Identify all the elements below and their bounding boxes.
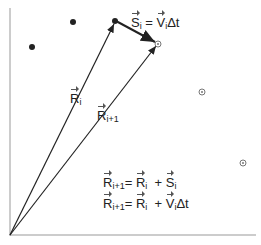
equation-2: Ri+1= Ri + ViΔt xyxy=(103,197,189,212)
particle-dot xyxy=(29,44,35,50)
r-i-label: Ri xyxy=(70,92,81,107)
s-symbol: S xyxy=(166,176,175,189)
r-sub: i+1 xyxy=(112,181,124,191)
plus: + xyxy=(147,175,165,190)
plus: + xyxy=(147,196,165,211)
equation-1: Ri+1= Ri + Si xyxy=(103,176,176,191)
s-symbol: S xyxy=(131,16,140,29)
delta-t: Δt xyxy=(176,196,188,211)
equals: = xyxy=(125,175,136,190)
r-sub: i+1 xyxy=(112,202,124,212)
r-sub: i xyxy=(79,97,81,107)
s-i-equation-label: Si = ViΔt xyxy=(131,16,179,31)
v-symbol: V xyxy=(157,16,166,29)
r-symbol: R xyxy=(70,92,79,105)
vector-r-i xyxy=(10,24,114,235)
particle-dot xyxy=(70,19,76,25)
r-sub: i+1 xyxy=(106,114,118,124)
particle-open-icon xyxy=(155,41,161,47)
r-symbol: R xyxy=(136,197,145,210)
equals: = xyxy=(142,15,157,30)
particle-open-icon xyxy=(199,89,205,95)
r-i-plus-1-label: Ri+1 xyxy=(97,109,119,124)
r-symbol: R xyxy=(103,197,112,210)
equals: = xyxy=(125,196,136,211)
delta-t: Δt xyxy=(167,15,179,30)
r-symbol: R xyxy=(97,109,106,122)
r-symbol: R xyxy=(136,176,145,189)
v-symbol: V xyxy=(166,197,175,210)
particle-i-dot xyxy=(112,18,118,24)
r-symbol: R xyxy=(103,176,112,189)
s-sub: i xyxy=(174,181,176,191)
particle-open-icon xyxy=(240,160,246,166)
